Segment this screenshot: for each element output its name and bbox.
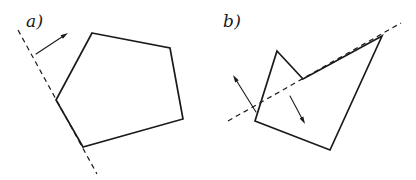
panel-b-reflection-arrow-down-right (290, 96, 305, 124)
panel-a-group (18, 30, 183, 174)
figure-drawing (0, 0, 416, 180)
panel-b-group (228, 23, 401, 150)
panel-label-a: a) (26, 13, 43, 30)
panel-b-concave-polygon (255, 36, 382, 150)
panel-a-reflection-arrow (36, 33, 68, 54)
panel-b-reflection-arrow-up-left (233, 75, 256, 112)
figure-canvas: a) b) (0, 0, 416, 180)
panel-label-b: b) (223, 13, 241, 30)
panel-a-convex-pentagon (56, 33, 183, 147)
